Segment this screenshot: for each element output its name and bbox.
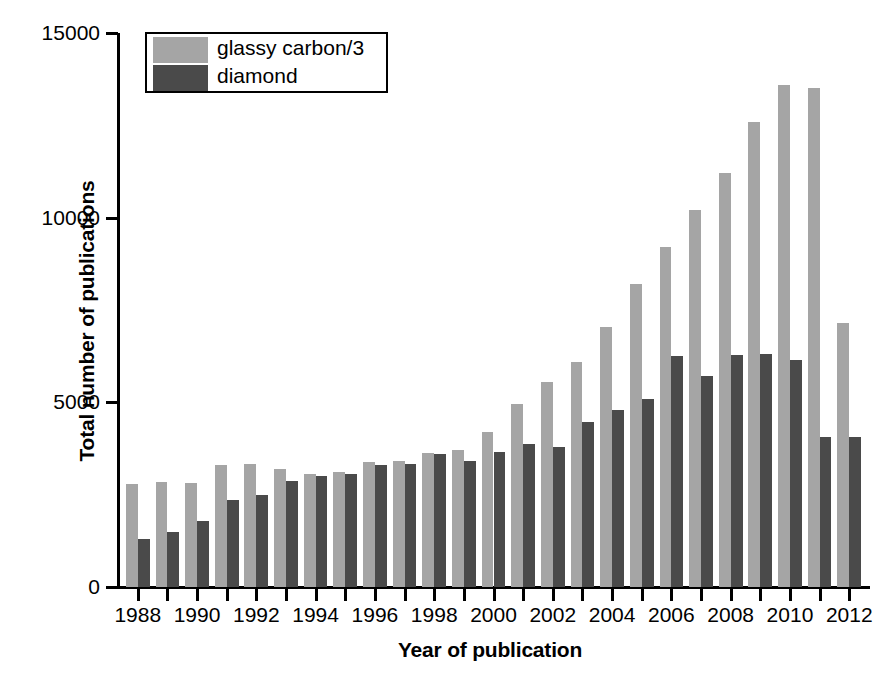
bar-diamond-2007 xyxy=(701,376,713,587)
bar-diamond-2004 xyxy=(612,410,624,587)
y-axis-tick-label-wrap: 10000 xyxy=(0,207,100,228)
bar-diamond-1992 xyxy=(256,495,268,587)
x-axis-tick xyxy=(433,588,436,601)
bar-diamond-1994 xyxy=(316,476,328,587)
x-axis-tick xyxy=(730,588,733,601)
bar-glassy-carbon-2012 xyxy=(837,323,849,587)
bar-diamond-2001 xyxy=(523,444,535,587)
y-axis-tick-label: 0 xyxy=(16,576,100,597)
bar-diamond-1990 xyxy=(197,521,209,587)
bar-diamond-1988 xyxy=(138,539,150,587)
bar-glassy-carbon-2009 xyxy=(748,122,760,587)
plot-area xyxy=(117,33,870,587)
bar-glassy-carbon-1988 xyxy=(126,484,138,587)
x-axis-tick xyxy=(404,588,407,601)
bar-diamond-2009 xyxy=(760,354,772,587)
bar-glassy-carbon-1997 xyxy=(393,461,405,587)
bar-diamond-1996 xyxy=(375,465,387,587)
bar-glassy-carbon-1999 xyxy=(452,450,464,587)
x-axis-tick xyxy=(700,588,703,601)
x-axis-tick xyxy=(255,588,258,601)
x-axis-tick xyxy=(759,588,762,601)
legend-swatch-glassy-carbon xyxy=(153,37,208,63)
x-axis-title: Year of publication xyxy=(110,638,870,662)
bar-diamond-1991 xyxy=(227,500,239,587)
bar-glassy-carbon-2000 xyxy=(482,432,494,587)
y-axis-tick-label: 10000 xyxy=(16,207,100,228)
bar-glassy-carbon-2011 xyxy=(808,88,820,587)
x-axis-tick xyxy=(493,588,496,601)
x-axis-tick-label: 2012 xyxy=(814,603,884,627)
x-axis-tick xyxy=(552,588,555,601)
x-axis-tick xyxy=(581,588,584,601)
bar-glassy-carbon-1996 xyxy=(363,462,375,587)
x-axis-tick xyxy=(522,588,525,601)
bar-diamond-2005 xyxy=(642,399,654,587)
bar-glassy-carbon-2010 xyxy=(778,85,790,587)
y-axis-tick-label-wrap: 0 xyxy=(0,576,100,597)
bar-glassy-carbon-1994 xyxy=(304,474,316,587)
x-axis-tick xyxy=(285,588,288,601)
x-axis-tick xyxy=(789,588,792,601)
bar-diamond-1998 xyxy=(434,454,446,587)
bar-diamond-2011 xyxy=(820,437,832,587)
bar-glassy-carbon-1993 xyxy=(274,469,286,587)
bar-diamond-2000 xyxy=(494,452,506,587)
x-axis-tick xyxy=(670,588,673,601)
bar-diamond-1999 xyxy=(464,461,476,587)
legend-swatch-diamond xyxy=(153,65,208,91)
x-axis-tick xyxy=(611,588,614,601)
bar-glassy-carbon-2007 xyxy=(689,210,701,587)
bar-diamond-2008 xyxy=(731,355,743,587)
bar-glassy-carbon-1989 xyxy=(156,482,168,587)
bar-glassy-carbon-1990 xyxy=(185,483,197,587)
publications-bar-chart-figure: Total number of publications Year of pub… xyxy=(0,0,890,681)
x-axis-tick xyxy=(344,588,347,601)
bar-glassy-carbon-2002 xyxy=(541,382,553,587)
bar-diamond-2006 xyxy=(671,356,683,587)
bar-diamond-2003 xyxy=(582,422,594,587)
x-axis-tick xyxy=(819,588,822,601)
y-axis-title: Total number of publications xyxy=(75,111,99,531)
x-axis-tick xyxy=(848,588,851,601)
bar-diamond-1993 xyxy=(286,481,298,587)
bar-glassy-carbon-2003 xyxy=(571,362,583,587)
bar-glassy-carbon-1992 xyxy=(244,464,256,587)
x-axis-tick xyxy=(226,588,229,601)
bar-diamond-1989 xyxy=(167,532,179,587)
y-axis-tick-label: 15000 xyxy=(16,22,100,43)
bar-glassy-carbon-2008 xyxy=(719,173,731,587)
x-axis-tick xyxy=(166,588,169,601)
x-axis-tick xyxy=(196,588,199,601)
bar-diamond-2012 xyxy=(849,437,861,587)
legend-label-diamond: diamond xyxy=(217,63,298,89)
bar-diamond-1995 xyxy=(345,474,357,587)
bar-glassy-carbon-1995 xyxy=(333,472,345,587)
x-axis-tick xyxy=(137,588,140,601)
bar-diamond-1997 xyxy=(405,464,417,587)
bar-glassy-carbon-2005 xyxy=(630,284,642,587)
bar-glassy-carbon-1998 xyxy=(422,453,434,587)
bar-glassy-carbon-2006 xyxy=(660,247,672,587)
bar-glassy-carbon-2001 xyxy=(511,404,523,587)
chart-legend: glassy carbon/3 diamond xyxy=(145,32,388,93)
x-axis-tick xyxy=(315,588,318,601)
bar-diamond-2002 xyxy=(553,447,565,587)
y-axis-tick-label-wrap: 15000 xyxy=(0,22,100,43)
y-axis-tick-label-wrap: 5000 xyxy=(0,391,100,412)
bar-glassy-carbon-1991 xyxy=(215,465,227,587)
legend-label-glassy-carbon: glassy carbon/3 xyxy=(217,35,364,61)
x-axis-tick xyxy=(374,588,377,601)
x-axis-tick xyxy=(463,588,466,601)
bar-glassy-carbon-2004 xyxy=(600,327,612,587)
bar-diamond-2010 xyxy=(790,360,802,587)
y-axis-tick-label: 5000 xyxy=(16,391,100,412)
x-axis-tick xyxy=(641,588,644,601)
